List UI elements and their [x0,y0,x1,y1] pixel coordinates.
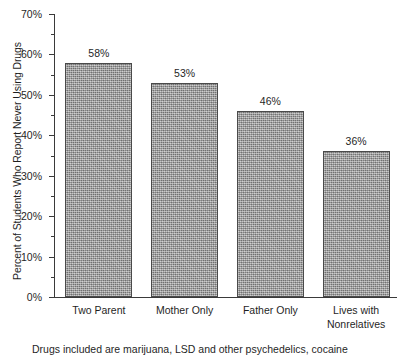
y-tick-label: 20% [21,210,42,222]
chart-caption: Drugs included are marijuana, LSD and ot… [32,343,392,356]
y-tick-minor [51,196,55,197]
y-tick-label: 60% [21,48,42,60]
bar-value-label: 53% [174,67,195,79]
y-tick-major: 50% [49,95,55,96]
category-label: Two Parent [72,303,125,317]
y-tick-major: 70% [49,14,55,15]
bar [323,151,390,297]
bar-value-label: 36% [346,135,367,147]
y-tick-label: 10% [21,251,42,263]
y-tick-label: 30% [21,170,42,182]
x-axis-line [54,297,397,298]
y-tick-label: 0% [27,291,42,303]
plot-area: 0%10%20%30%40%50%60%70% 58%53%46%36% Two… [54,14,397,297]
category-label: Mother Only [156,303,213,317]
category-label: Lives withNonrelatives [327,303,385,331]
bar-value-label: 58% [88,47,109,59]
y-tick-major: 20% [49,216,55,217]
y-tick-minor [51,115,55,116]
bar [151,83,218,297]
y-tick-label: 50% [21,89,42,101]
y-tick-label: 70% [21,8,42,20]
bar [65,63,132,297]
y-tick-major: 0% [49,297,55,298]
y-tick-minor [51,34,55,35]
category-label: Father Only [243,303,298,317]
bar [237,111,304,297]
y-tick-minor [51,75,55,76]
y-tick-minor [51,277,55,278]
y-tick-major: 30% [49,176,55,177]
y-tick-major: 60% [49,54,55,55]
y-tick-minor [51,236,55,237]
bar-value-label: 46% [260,95,281,107]
y-tick-major: 10% [49,257,55,258]
y-tick-label: 40% [21,129,42,141]
y-tick-major: 40% [49,135,55,136]
y-tick-minor [51,156,55,157]
